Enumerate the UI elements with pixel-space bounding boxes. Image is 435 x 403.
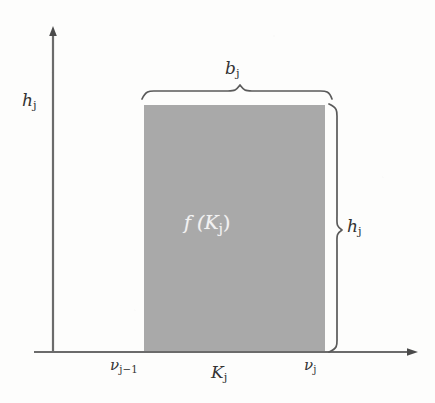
width-brace-label: bj	[225, 60, 240, 77]
height-brace-label: hj	[347, 218, 362, 235]
y-axis-label-subscript: j	[33, 98, 37, 112]
interval-label-text: K	[211, 362, 224, 382]
bar-area-label-text: f (K	[184, 211, 219, 233]
height-brace	[329, 104, 342, 352]
interval-label: Kj	[211, 364, 228, 381]
figure-canvas	[0, 0, 435, 403]
x-tick-label-left: νj−1	[110, 358, 138, 373]
width-brace-label-text: b	[225, 58, 236, 78]
bar-area-label-tail: )	[223, 211, 230, 233]
x-tick-label-left-text: ν	[110, 356, 119, 374]
width-brace-label-subscript: j	[236, 66, 240, 80]
y-axis-label-text: h	[22, 90, 33, 110]
interval-label-subscript: j	[224, 370, 228, 384]
y-axis-label: hj	[22, 92, 37, 109]
x-tick-label-right-text: ν	[304, 356, 313, 374]
bar-area-label: f (Kj)	[184, 213, 230, 232]
height-brace-label-subscript: j	[358, 224, 362, 238]
histogram-bar-figure: hj bj hj f (Kj) νj−1 Kj νj	[0, 0, 435, 403]
x-axis-arrowhead-icon	[407, 348, 418, 356]
x-tick-label-right-subscript: j	[313, 364, 316, 375]
x-tick-label-right: νj	[304, 358, 317, 373]
height-brace-label-text: h	[347, 216, 358, 236]
x-tick-label-left-subscript: j−1	[119, 364, 138, 375]
y-axis-arrowhead-icon	[49, 26, 57, 36]
bar-rectangle	[144, 105, 325, 352]
bar-area-label-subscript: j	[219, 221, 223, 236]
width-brace	[142, 85, 332, 99]
